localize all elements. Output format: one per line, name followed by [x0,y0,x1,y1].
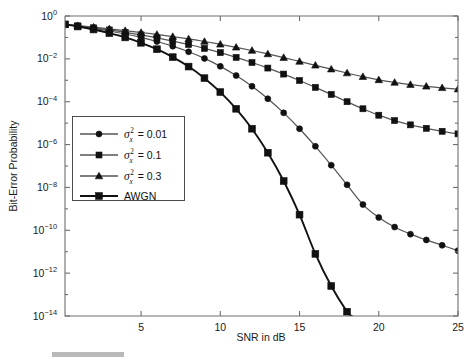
data-marker-circle [297,126,303,132]
data-marker-square [297,78,303,84]
data-marker-square [281,71,287,77]
data-marker-square [217,50,223,56]
data-marker-square [185,63,192,70]
data-marker-circle [217,63,223,69]
bit-error-probability-chart: 510152025 10−1410−1210−1010−810−610−410−… [0,0,475,364]
data-marker-circle [186,49,192,55]
data-marker-square [312,250,319,257]
data-marker-square [376,112,382,118]
data-marker-circle [376,214,382,220]
data-marker-circle [96,131,102,137]
legend-label-3: AWGN [124,190,156,202]
data-marker-square [296,211,303,218]
data-marker-square [312,84,318,90]
data-marker-square [201,75,208,82]
data-marker-square [249,60,255,66]
x-tick-label: 20 [373,321,385,333]
data-marker-circle [312,143,318,149]
data-marker-square [360,106,366,112]
data-marker-square [201,45,207,51]
data-marker-circle [360,202,366,208]
data-marker-square [217,89,224,96]
data-marker-square [154,46,161,53]
data-marker-square [96,152,102,158]
data-marker-square [328,91,334,97]
data-marker-square [392,118,398,124]
data-marker-square [328,283,335,290]
data-marker-square [106,30,113,37]
data-marker-circle [201,55,207,61]
data-marker-square [233,54,239,60]
data-marker-square [249,125,256,132]
x-tick-label: 10 [214,321,226,333]
x-tick-label: 25 [452,321,464,333]
scan-artifact-bar [52,352,124,357]
data-marker-circle [233,73,239,79]
data-marker-square [74,23,81,30]
data-marker-circle [249,83,255,89]
data-marker-square [186,42,192,48]
chart-legend: σ2x = 0.01σ2x = 0.1σ2x = 0.3AWGN [73,117,185,202]
y-axis-label: Bit-Error Probability [7,120,19,212]
data-marker-circle [344,182,350,188]
data-marker-circle [423,237,429,243]
data-marker-circle [439,242,445,248]
data-marker-square [423,125,429,131]
data-marker-square [344,99,350,105]
x-tick-label: 15 [294,321,306,333]
data-marker-square [439,128,445,134]
x-tick-label: 5 [138,321,144,333]
data-marker-square [407,122,413,128]
data-marker-circle [328,162,334,168]
data-marker-circle [265,96,271,102]
data-marker-square [138,39,145,46]
x-axis-label: SNR in dB [236,331,285,343]
data-marker-circle [281,110,287,116]
data-marker-square [122,34,129,41]
data-marker-circle [407,231,413,237]
data-marker-square [280,178,287,185]
data-marker-square [265,65,271,71]
data-marker-circle [392,224,398,230]
data-marker-square [264,149,271,156]
data-marker-square [96,193,103,200]
data-marker-square [344,308,351,315]
data-marker-square [169,54,176,61]
data-marker-square [90,26,97,33]
data-marker-square [233,105,240,112]
chart-figure: 510152025 10−1410−1210−1010−810−610−410−… [0,0,475,364]
